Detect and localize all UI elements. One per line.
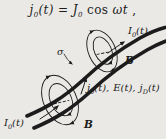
displacement-current-density-label: jD(t)	[140, 82, 160, 93]
sigma-arrow	[64, 54, 72, 64]
label-part: (t)	[12, 117, 24, 128]
sigma-label: σ	[57, 46, 64, 57]
current-density-labels: j0(t),E(t),jD(t)	[87, 82, 160, 98]
conduction-current-density-label: j0(t),	[87, 82, 109, 93]
b-field-label-upper: B	[125, 55, 134, 66]
wire-field-diagram	[0, 0, 166, 139]
textbook-figure: j0(t) = J0 cos ωt ,	[0, 0, 166, 139]
current-label-top: I0(t)	[128, 25, 148, 41]
current-label-bottom: I0(t)	[4, 117, 24, 133]
label-part: (t)	[136, 25, 148, 36]
electric-field-label: E(t),	[113, 82, 135, 93]
b-field-label-lower: B	[84, 119, 93, 130]
